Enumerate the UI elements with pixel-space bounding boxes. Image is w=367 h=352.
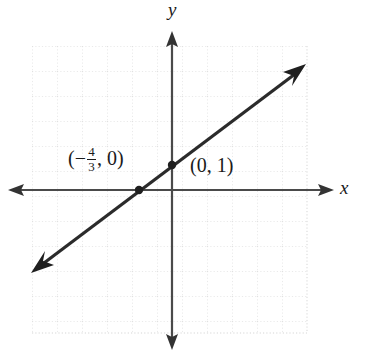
coordinate-plane <box>0 0 367 352</box>
fraction-four-thirds: 43 <box>87 145 96 173</box>
fraction-denominator: 3 <box>87 160 96 174</box>
x-axis-label: x <box>340 178 348 197</box>
x-intercept-label: (−43, 0) <box>68 146 124 174</box>
y-axis-label: y <box>168 0 176 19</box>
fraction-numerator: 4 <box>87 145 96 159</box>
x-intercept-close-paren: ) <box>117 147 124 169</box>
x-intercept-dot <box>135 186 143 194</box>
y-intercept-dot <box>168 161 176 169</box>
x-intercept-separator: , 0 <box>97 147 117 169</box>
y-intercept-label: (0, 1) <box>190 155 233 175</box>
graph-figure: y x (−43, 0) (0, 1) <box>0 0 367 352</box>
x-intercept-open-paren: ( <box>68 147 75 169</box>
x-intercept-minus-sign: − <box>75 147 86 169</box>
